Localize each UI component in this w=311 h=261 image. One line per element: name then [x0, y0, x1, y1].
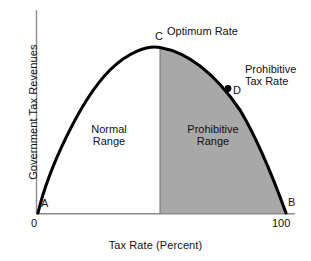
prohibitive-tax-rate-line2: Tax Rate — [245, 75, 288, 87]
point-c-label: C — [155, 30, 163, 42]
normal-range-line2: Range — [93, 135, 125, 147]
x-axis-tick-100: 100 — [272, 217, 290, 229]
point-a-label: A — [41, 197, 48, 209]
prohibitive-range-line1: Prohibitive — [187, 123, 238, 135]
normal-range-line1: Normal — [91, 123, 126, 135]
y-axis-title: Government Tax Revenues — [27, 17, 39, 207]
x-axis-tick-0: 0 — [31, 217, 37, 229]
prohibitive-tax-rate-line1: Prohibitive — [245, 63, 296, 75]
prohibitive-range-label: Prohibitive Range — [174, 123, 252, 148]
prohibitive-tax-rate-label: Prohibitive Tax Rate — [245, 63, 296, 88]
point-b-label: B — [288, 196, 295, 208]
x-axis-title: Tax Rate (Percent) — [0, 239, 311, 251]
point-d-marker — [225, 85, 232, 92]
point-d-label: D — [233, 84, 241, 96]
optimum-rate-label: Optimum Rate — [167, 25, 238, 37]
normal-range-label: Normal Range — [78, 123, 140, 148]
laffer-curve-figure: Normal Range Prohibitive Range Optimum R… — [0, 0, 311, 261]
prohibitive-range-line2: Range — [197, 135, 229, 147]
